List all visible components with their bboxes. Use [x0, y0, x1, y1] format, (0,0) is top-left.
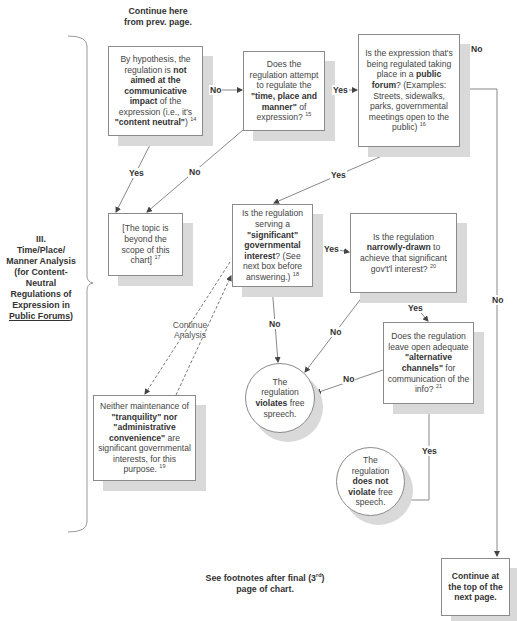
edge-label-no: No: [188, 167, 201, 177]
edge-label-no: No: [470, 44, 483, 54]
time-place-manner-box: Does the regulation attempt to regulate …: [243, 51, 325, 131]
flowchart: Continue here from prev. page. III. Time…: [0, 0, 517, 621]
edge-label-yes: Yes: [128, 168, 145, 178]
section-title-line: Manner Analysis: [6, 256, 76, 266]
edge-label-no: No: [342, 374, 355, 384]
continue-from-previous-label: Continue here from prev. page.: [118, 6, 198, 28]
content-neutral-box: By hypothesis, the regulation is not aim…: [108, 46, 203, 136]
violates-outcome: The regulation violates free spreech.: [245, 363, 315, 433]
does-not-violate-outcome: The regulation does not violate free spe…: [336, 447, 405, 516]
public-forum-box: Is the expression that's being regulated…: [358, 34, 460, 147]
edge-label-no: No: [268, 319, 281, 329]
edge-label-yes: Yes: [330, 170, 347, 180]
footnotes-note: See footnotes after final (3rd) page of …: [200, 573, 330, 595]
significant-interest-box: Is the regulation serving a "significant…: [232, 204, 313, 287]
edge-label-no: No: [491, 295, 504, 305]
section-heading: III. Time/Place/ Manner Analysis (for Co…: [2, 234, 80, 322]
section-title-line: Regulations of: [10, 289, 71, 299]
section-title-line: (for Content-: [14, 267, 67, 277]
edge-label-yes: Yes: [407, 303, 424, 313]
section-title-line: Time/Place/: [17, 245, 65, 255]
beyond-scope-box: [The topic is beyond the scope of this c…: [108, 213, 183, 276]
section-title-underlined: Public Forums: [9, 311, 70, 321]
section-title-line: Expression in: [12, 300, 70, 310]
edge-label-no: No: [329, 327, 342, 337]
section-title-close: ): [70, 311, 73, 321]
continue-analysis-label: Continue Analysis: [168, 320, 212, 340]
section-title-line: Neutral: [26, 278, 56, 288]
alternative-channels-box: Does the regulation leave open adequate …: [383, 322, 474, 404]
not-significant-interests-box: Neither maintenance of "tranquility" nor…: [93, 395, 196, 481]
continue-next-page-box: Continue at the top of the next page.: [441, 558, 510, 616]
edge-label-yes: Yes: [323, 244, 340, 254]
edge-label-yes: Yes: [421, 446, 438, 456]
narrowly-drawn-box: Is the regulation narrowly-drawn to achi…: [350, 213, 457, 293]
edge-label-no: No: [209, 85, 222, 95]
edge-label-yes: Yes: [332, 85, 349, 95]
section-number: III.: [36, 234, 46, 244]
